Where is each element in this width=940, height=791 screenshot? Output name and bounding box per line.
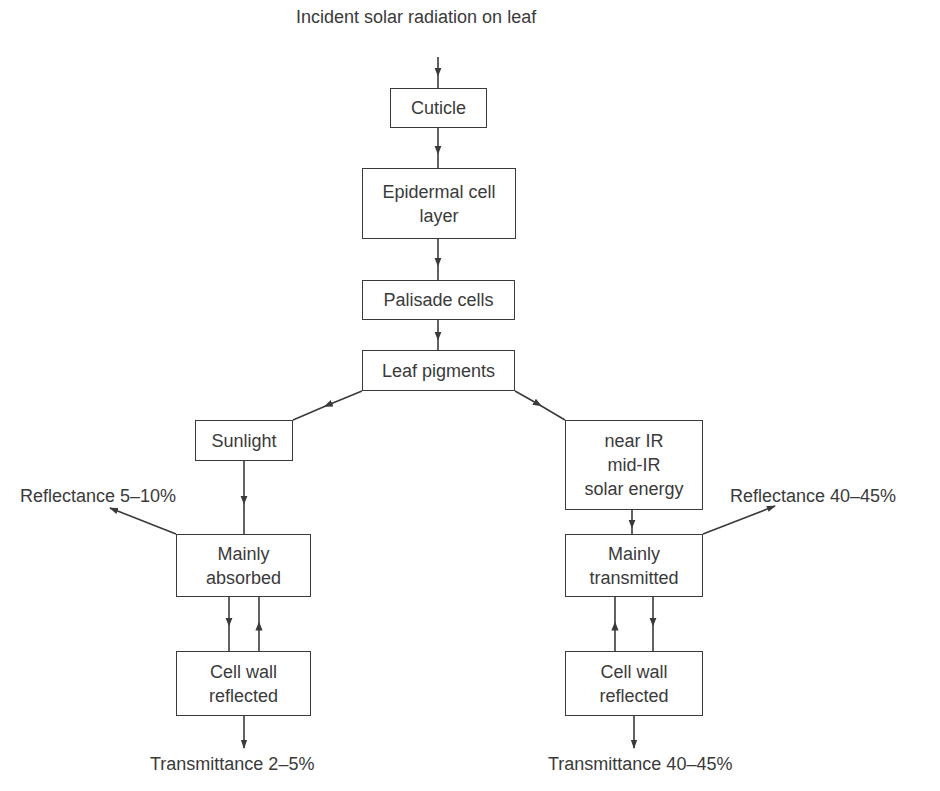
node-label: Leaf pigments — [382, 359, 495, 383]
node-mainly-absorbed: Mainly absorbed — [176, 534, 311, 597]
node-label: Cell wall — [210, 660, 277, 684]
node-cell-wall-reflected-left: Cell wall reflected — [176, 651, 311, 716]
node-label: mid-IR — [608, 453, 661, 477]
node-cell-wall-reflected-right: Cell wall reflected — [565, 651, 703, 716]
reflectance-left-label: Reflectance 5–10% — [20, 485, 176, 507]
node-label: Mainly — [608, 542, 660, 566]
transmittance-left-label: Transmittance 2–5% — [150, 753, 314, 775]
node-label: absorbed — [206, 566, 281, 590]
node-infrared-solar-energy: near IR mid-IR solar energy — [565, 420, 703, 510]
node-leaf-pigments: Leaf pigments — [362, 350, 515, 391]
reflectance-right-label: Reflectance 40–45% — [730, 485, 896, 507]
node-label: Mainly — [217, 542, 269, 566]
node-label: Sunlight — [211, 429, 276, 453]
node-label: Palisade cells — [383, 288, 493, 312]
node-palisade-cells: Palisade cells — [362, 280, 515, 320]
node-label: Cell wall — [600, 660, 667, 684]
node-label: transmitted — [589, 566, 678, 590]
node-label: solar energy — [584, 477, 683, 501]
diagram-title: Incident solar radiation on leaf — [296, 6, 536, 28]
node-label: layer — [419, 204, 458, 228]
node-label: Epidermal cell — [382, 180, 495, 204]
node-label: near IR — [604, 429, 663, 453]
node-cuticle: Cuticle — [390, 88, 487, 128]
node-label: reflected — [599, 684, 668, 708]
node-label: Cuticle — [411, 96, 466, 120]
node-epidermal-cell-layer: Epidermal cell layer — [362, 168, 516, 239]
transmittance-right-label: Transmittance 40–45% — [548, 753, 732, 775]
node-sunlight: Sunlight — [195, 420, 293, 461]
node-mainly-transmitted: Mainly transmitted — [565, 534, 703, 597]
node-label: reflected — [209, 684, 278, 708]
